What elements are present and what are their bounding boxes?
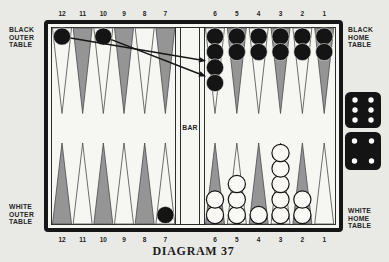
- die-pip: [352, 138, 357, 143]
- die-pip: [352, 107, 357, 112]
- checker-black: [272, 43, 289, 60]
- checker-black: [206, 74, 223, 91]
- checker-white: [250, 206, 267, 223]
- checker-black: [206, 28, 223, 45]
- die-pip: [368, 107, 373, 112]
- point-number-bottom-1: 1: [322, 236, 326, 243]
- checker-white: [228, 191, 245, 208]
- checker-white: [206, 191, 223, 208]
- point-number-bottom-5: 5: [235, 236, 239, 243]
- diagram-caption: DIAGRAM 37: [44, 244, 343, 259]
- die-6: [345, 92, 381, 128]
- checker-black: [228, 43, 245, 60]
- checker-black: [316, 43, 333, 60]
- point-number-top-1: 1: [322, 10, 326, 17]
- point-number-top-5: 5: [235, 10, 239, 17]
- checker-black: [316, 28, 333, 45]
- checker-black: [53, 28, 70, 45]
- checker-white: [272, 160, 289, 177]
- checker-black: [272, 28, 289, 45]
- point-number-bottom-9: 9: [122, 236, 126, 243]
- point-number-top-12: 12: [58, 10, 66, 17]
- point-number-bottom-8: 8: [143, 236, 147, 243]
- point-number-top-6: 6: [213, 10, 217, 17]
- checker-white: [294, 191, 311, 208]
- checker-white: [272, 206, 289, 223]
- bar-label: BAR: [182, 124, 198, 131]
- point-number-top-11: 11: [79, 10, 86, 17]
- point-number-bottom-12: 12: [58, 236, 66, 243]
- checker-black: [294, 43, 311, 60]
- checker-black: [250, 28, 267, 45]
- checker-white: [228, 175, 245, 192]
- point-number-top-8: 8: [143, 10, 147, 17]
- checker-black: [294, 28, 311, 45]
- point-number-bottom-3: 3: [279, 236, 283, 243]
- point-number-top-4: 4: [257, 10, 261, 17]
- checker-black: [206, 43, 223, 60]
- checker-white: [228, 206, 245, 223]
- checker-black: [157, 206, 174, 223]
- point-number-top-2: 2: [301, 10, 305, 17]
- die-pip: [368, 97, 373, 102]
- die-pip: [368, 117, 373, 122]
- point-number-bottom-10: 10: [100, 236, 108, 243]
- checker-black: [206, 59, 223, 76]
- die-pip: [369, 138, 374, 143]
- die-pip: [352, 117, 357, 122]
- checker-white: [272, 191, 289, 208]
- die-pip: [352, 158, 357, 163]
- backgammon-board: 121110987654321121110987654321 BAR: [0, 0, 389, 262]
- point-number-top-9: 9: [122, 10, 126, 17]
- point-number-bottom-7: 7: [164, 236, 168, 243]
- die-pip: [352, 97, 357, 102]
- checker-white: [294, 206, 311, 223]
- point-number-top-10: 10: [100, 10, 108, 17]
- checker-black: [250, 43, 267, 60]
- point-number-bottom-6: 6: [213, 236, 217, 243]
- checker-white: [272, 144, 289, 161]
- page-background: BLACK OUTER TABLE BLACK HOME TABLE WHITE…: [0, 0, 389, 262]
- die-pip: [369, 158, 374, 163]
- checker-white: [272, 175, 289, 192]
- die-4: [345, 132, 381, 170]
- point-number-top-3: 3: [279, 10, 283, 17]
- point-number-bottom-4: 4: [257, 236, 261, 243]
- checker-black: [228, 28, 245, 45]
- point-number-top-7: 7: [164, 10, 168, 17]
- checker-white: [206, 206, 223, 223]
- board-graphics: 121110987654321121110987654321: [46, 10, 381, 243]
- point-number-bottom-11: 11: [79, 236, 86, 243]
- point-number-bottom-2: 2: [301, 236, 305, 243]
